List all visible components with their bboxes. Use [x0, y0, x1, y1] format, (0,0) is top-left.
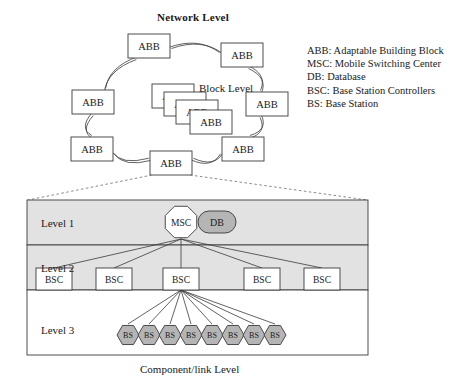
- bsc-2-label: BSC: [105, 275, 123, 285]
- abb-bottom-left-label: ABB: [81, 144, 103, 155]
- bs-label: BS: [270, 331, 280, 340]
- bsc-3-label: BSC: [172, 275, 190, 285]
- ring-link: [250, 115, 263, 136]
- ring-link: [112, 152, 149, 161]
- abb-top-right-label: ABB: [231, 50, 253, 61]
- abb-bottom-right-label: ABB: [232, 144, 254, 155]
- bsc-1-label: BSC: [45, 275, 63, 285]
- abb-top-label: ABB: [138, 41, 160, 52]
- expansion-dashed-lines: [28, 175, 367, 200]
- abb-right-label: ABB: [256, 99, 278, 110]
- bs-label: BS: [207, 331, 217, 340]
- block-abb-4-label: ABB: [200, 117, 222, 128]
- diagram-canvas: ABBABBABBABBABBABBABB ABBABBABBABB DBMSC…: [0, 0, 468, 388]
- bs-label: BS: [144, 331, 154, 340]
- bs-label: BS: [249, 331, 259, 340]
- abb-bottom-label: ABB: [160, 158, 182, 169]
- bsc-4-label: BSC: [253, 275, 271, 285]
- db-label: DB: [210, 217, 224, 228]
- bs-label: BS: [165, 331, 175, 340]
- ring-link: [104, 59, 136, 91]
- level-1-label: Level 1: [41, 217, 74, 229]
- expansion-dashed-line: [28, 175, 152, 200]
- bs-label: BS: [228, 331, 238, 340]
- diagram-root: Network Level Block Level ABB: Adaptable…: [0, 0, 468, 388]
- msc-label: MSC: [171, 218, 191, 228]
- ring-link: [193, 152, 223, 162]
- ring-link: [172, 44, 223, 53]
- abb-left-label: ABB: [82, 97, 104, 108]
- level-3-label: Level 3: [41, 324, 75, 336]
- level-3-band: [27, 290, 368, 355]
- bs-label: BS: [123, 331, 133, 340]
- expansion-dashed-line: [190, 175, 367, 200]
- bs-label: BS: [186, 331, 196, 340]
- bsc-5-label: BSC: [313, 275, 331, 285]
- level-2-label: Level 2: [41, 262, 74, 274]
- block-level-cards-group: ABBABBABBABB: [152, 84, 232, 134]
- level-1-band: [27, 200, 368, 245]
